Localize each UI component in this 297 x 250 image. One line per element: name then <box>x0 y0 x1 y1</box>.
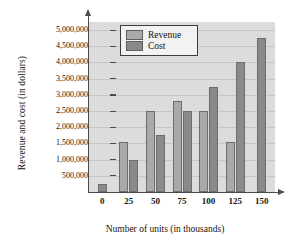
x-tick-label: 150 <box>247 196 277 206</box>
legend-label-cost: Cost <box>148 41 165 51</box>
y-tick-label: 4,500,000 <box>32 41 88 50</box>
x-tick-label: 0 <box>87 196 117 206</box>
legend-label-revenue: Revenue <box>148 30 181 40</box>
x-tick-label: 125 <box>220 196 250 206</box>
bar-cost <box>129 160 138 192</box>
chart-legend: Revenue Cost <box>120 25 198 56</box>
bar-chart-figure: Revenue and cost (in dollars) Number of … <box>0 0 297 250</box>
y-axis-ticks: 500,0001,000,0001,500,0002,000,0002,500,… <box>26 0 88 250</box>
bar-cost <box>209 87 218 192</box>
y-tick-label: 500,000 <box>32 171 88 180</box>
y-tick-label: 1,000,000 <box>32 155 88 164</box>
bar-cost <box>98 184 107 192</box>
bar-cost <box>257 38 266 192</box>
y-tick-label: 2,000,000 <box>32 122 88 131</box>
bar-revenue <box>199 111 208 192</box>
legend-swatch-cost <box>126 41 143 51</box>
legend-item-cost: Cost <box>126 41 193 51</box>
legend-item-revenue: Revenue <box>126 30 193 40</box>
x-axis-title: Number of units (in thousands) <box>60 224 270 234</box>
bar-revenue <box>226 142 235 192</box>
bar-cost <box>183 111 192 192</box>
bar-revenue <box>119 142 128 192</box>
bar-revenue <box>173 101 182 192</box>
bar-cost <box>236 62 245 192</box>
y-tick-label: 5,000,000 <box>32 25 88 34</box>
x-tick-label: 25 <box>114 196 144 206</box>
y-tick-label: 2,500,000 <box>32 106 88 115</box>
y-tick-label: 3,500,000 <box>32 74 88 83</box>
x-tick-label: 100 <box>194 196 224 206</box>
y-tick-label: 1,500,000 <box>32 138 88 147</box>
bar-cost <box>156 135 165 192</box>
bar-revenue <box>146 111 155 192</box>
y-tick-label: 4,000,000 <box>32 57 88 66</box>
x-tick-label: 50 <box>140 196 170 206</box>
y-tick-label: 3,000,000 <box>32 90 88 99</box>
x-axis-arrow-icon <box>278 189 285 195</box>
x-tick-label: 75 <box>167 196 197 206</box>
legend-swatch-revenue <box>126 30 143 40</box>
